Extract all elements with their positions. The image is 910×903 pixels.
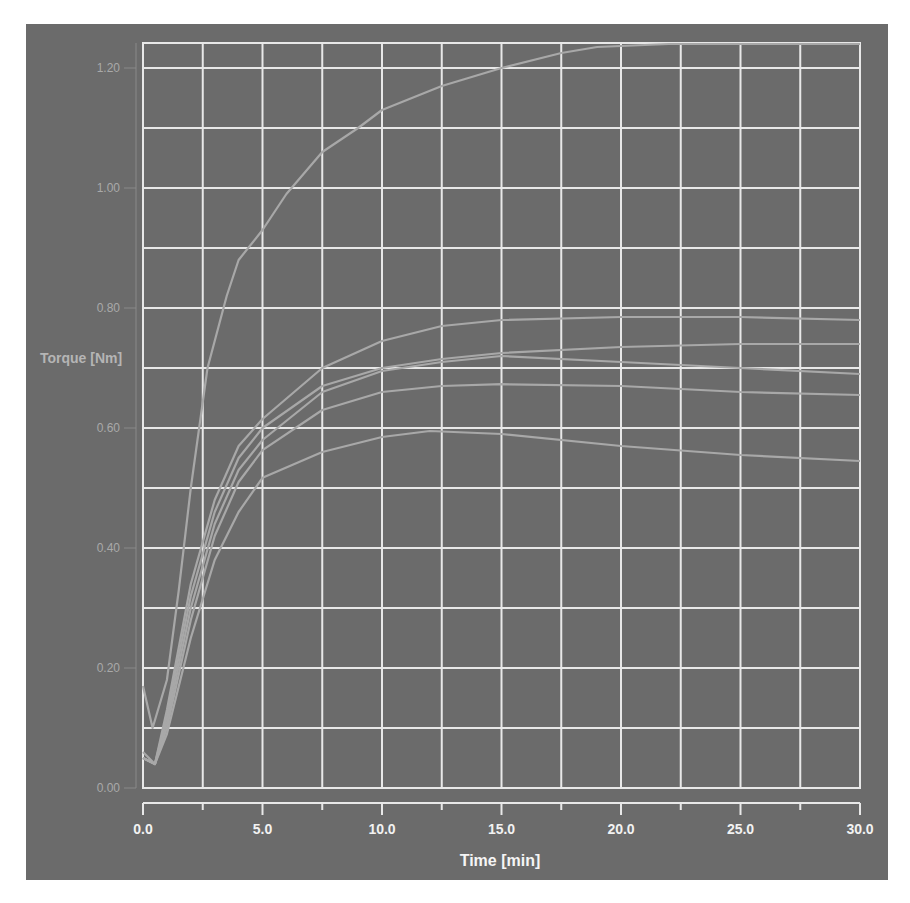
y-tick-label: 0.00 bbox=[97, 781, 121, 795]
torque-time-chart: 0.000.200.400.600.801.001.20 0.05.010.01… bbox=[0, 0, 910, 903]
y-tick-labels: 0.000.200.400.600.801.001.20 bbox=[97, 61, 136, 795]
x-axis-label: Time [min] bbox=[460, 852, 541, 869]
x-tick-label: 10.0 bbox=[368, 821, 395, 837]
y-tick-label: 0.20 bbox=[97, 661, 121, 675]
x-tick-label: 5.0 bbox=[253, 821, 273, 837]
x-tick-label: 25.0 bbox=[727, 821, 754, 837]
grid-lines bbox=[143, 43, 860, 788]
y-tick-label: 1.20 bbox=[97, 61, 121, 75]
x-tick-label: 30.0 bbox=[846, 821, 873, 837]
y-tick-label: 0.80 bbox=[97, 301, 121, 315]
y-tick-label: 0.40 bbox=[97, 541, 121, 555]
y-axis-label: Torque [Nm] bbox=[40, 350, 122, 366]
y-tick-label: 0.60 bbox=[97, 421, 121, 435]
x-tick-label: 0.0 bbox=[133, 821, 153, 837]
x-tick-label: 20.0 bbox=[607, 821, 634, 837]
x-tick-labels: 0.05.010.015.020.025.030.0 bbox=[133, 821, 874, 837]
y-tick-label: 1.00 bbox=[97, 181, 121, 195]
x-tick-label: 15.0 bbox=[488, 821, 515, 837]
